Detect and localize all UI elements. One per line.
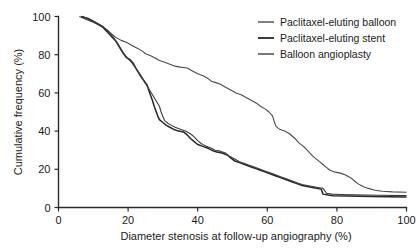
y-tick-label: 0	[44, 202, 50, 214]
legend-label-2: Balloon angioplasty	[280, 48, 372, 60]
y-axis-ticks: 020406080100	[32, 11, 58, 214]
y-tick-label: 60	[38, 87, 50, 99]
legend-label-0: Paclitaxel-eluting balloon	[280, 16, 396, 28]
y-tick-label: 40	[38, 125, 50, 137]
x-tick-label: 0	[55, 214, 61, 226]
chart-figure: 020406080100 020406080100 Paclitaxel-elu…	[0, 0, 420, 250]
x-axis-title: Diameter stenosis at follow-up angiograp…	[120, 230, 351, 242]
x-tick-label: 40	[192, 214, 204, 226]
x-tick-label: 60	[261, 214, 273, 226]
y-tick-label: 20	[38, 163, 50, 175]
y-tick-label: 80	[38, 49, 50, 61]
y-axis-title: Cumulative frequency (%)	[12, 49, 24, 176]
cumulative-frequency-chart: 020406080100 020406080100 Paclitaxel-elu…	[0, 0, 420, 250]
x-axis-ticks: 020406080100	[55, 208, 415, 226]
x-tick-label: 100	[397, 214, 415, 226]
y-tick-label: 100	[32, 11, 50, 23]
x-tick-label: 80	[331, 214, 343, 226]
chart-axes	[59, 17, 407, 208]
chart-legend: Paclitaxel-eluting balloonPaclitaxel-elu…	[258, 16, 396, 60]
legend-label-1: Paclitaxel-eluting stent	[280, 32, 385, 44]
x-tick-label: 20	[122, 214, 134, 226]
